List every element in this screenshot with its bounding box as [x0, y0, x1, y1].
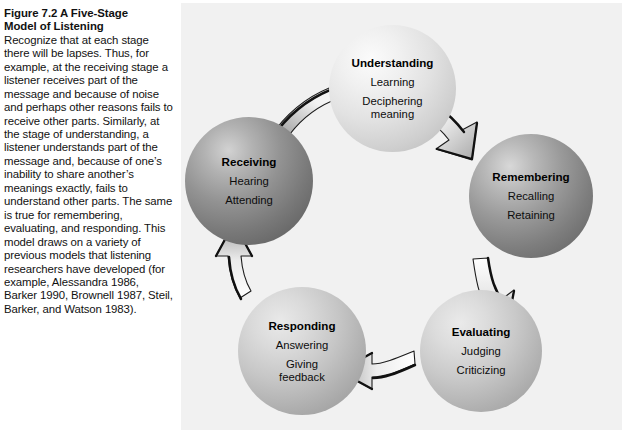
node-item-responding-0: Answering: [276, 339, 329, 352]
cycle-node-remembering[interactable]: Remembering Recalling Retaining: [469, 134, 593, 258]
cycle-node-evaluating[interactable]: Evaluating Judging Criticizing: [420, 290, 542, 412]
node-title-responding: Responding: [269, 319, 336, 332]
node-title-receiving: Receiving: [222, 155, 277, 168]
node-item-understanding-0: Learning: [371, 76, 415, 89]
node-item-receiving-1: Attending: [225, 194, 273, 207]
node-item-remembering-1: Retaining: [507, 209, 555, 222]
node-item-remembering-0: Recalling: [508, 190, 554, 203]
cycle-node-receiving[interactable]: Receiving Hearing Attending: [185, 117, 313, 245]
cycle-node-responding[interactable]: Responding Answering Giving feedback: [238, 287, 366, 415]
node-item-receiving-0: Hearing: [229, 175, 269, 188]
figure-title-line-1: Figure 7.2 A Five-Stage: [4, 7, 128, 19]
node-item-responding-1: Giving feedback: [271, 358, 333, 383]
figure-title-line-2: Model of Listening: [4, 20, 104, 32]
cycle-node-understanding[interactable]: Understanding Learning Deciphering meani…: [329, 25, 456, 152]
figure-caption-text: Recognize that at each stage there will …: [4, 34, 174, 317]
node-title-evaluating: Evaluating: [452, 325, 511, 338]
figure-root: Figure 7.2 A Five-Stage Model of Listeni…: [0, 0, 640, 433]
node-item-evaluating-1: Criticizing: [457, 364, 506, 377]
node-item-evaluating-0: Judging: [461, 345, 501, 358]
figure-diagram-panel: Understanding Learning Deciphering meani…: [181, 3, 622, 430]
figure-title: Figure 7.2 A Five-Stage Model of Listeni…: [4, 7, 174, 34]
node-title-remembering: Remembering: [492, 170, 569, 183]
figure-caption-block: Figure 7.2 A Five-Stage Model of Listeni…: [4, 7, 174, 316]
node-title-understanding: Understanding: [352, 56, 434, 69]
node-item-understanding-1: Deciphering meaning: [350, 95, 436, 120]
